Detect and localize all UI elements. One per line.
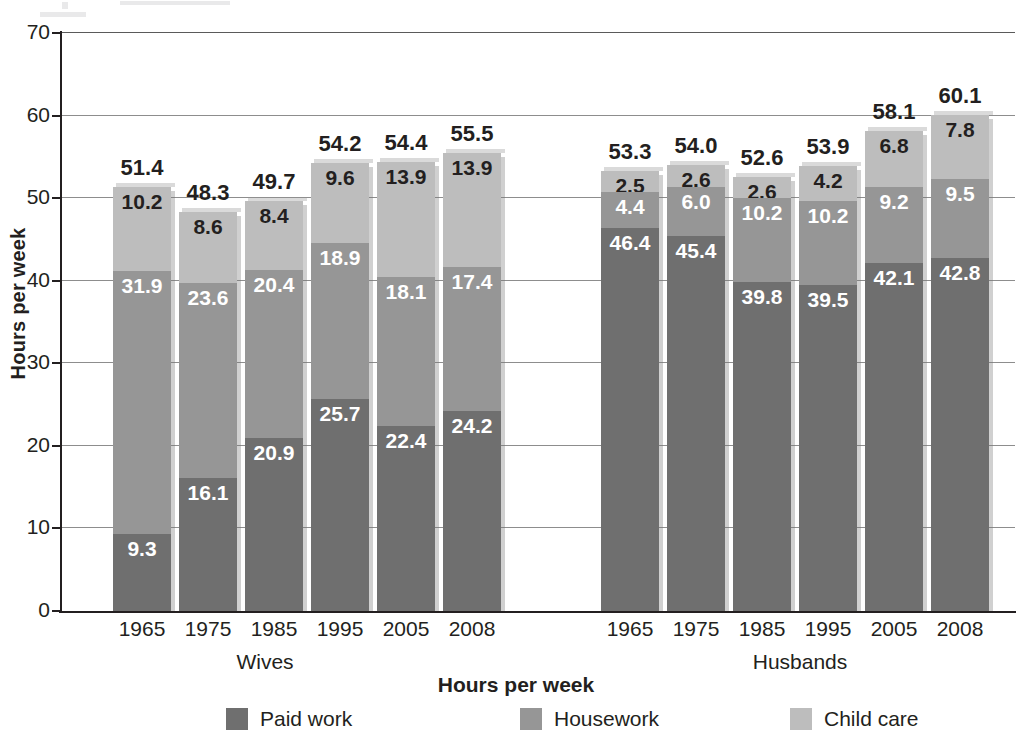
- legend-label-child-care: Child care: [824, 707, 919, 731]
- housework-swatch: [520, 708, 542, 730]
- y-axis-line: [60, 31, 62, 613]
- segment-child-care-wives-2008[interactable]: 13.9: [443, 153, 501, 268]
- bar-total-label-wives-2008: 55.5: [429, 121, 515, 147]
- segment-value-label: 6.0: [681, 187, 710, 212]
- segment-child-care-husbands-2005[interactable]: 6.8: [865, 131, 923, 187]
- bar-husbands-2008[interactable]: 7.89.542.8: [931, 115, 989, 611]
- segment-housework-wives-2005[interactable]: 18.1: [377, 277, 435, 426]
- bar-husbands-1985[interactable]: 2.610.239.8: [733, 177, 791, 611]
- segment-housework-husbands-2005[interactable]: 9.2: [865, 187, 923, 263]
- segment-paid-work-husbands-1965[interactable]: 46.4: [601, 228, 659, 611]
- segment-child-care-wives-1995[interactable]: 9.6: [311, 163, 369, 242]
- segment-value-label: 42.1: [874, 263, 915, 288]
- segment-value-label: 18.9: [320, 243, 361, 268]
- legend-item-paid-work[interactable]: Paid work: [226, 707, 352, 731]
- y-tick-label-10: 10: [4, 515, 50, 539]
- segment-value-label: 9.5: [945, 179, 974, 204]
- gridline-70: [60, 32, 1015, 33]
- segment-value-label: 9.3: [127, 534, 156, 559]
- segment-value-label: 39.8: [742, 282, 783, 307]
- stacked-bar-chart: Hours per week 706050403020100 51.410.23…: [0, 0, 1032, 746]
- bar-wives-2005[interactable]: 13.918.122.4: [377, 162, 435, 611]
- bar-wives-1985[interactable]: 8.420.420.9: [245, 201, 303, 611]
- bar-total-label-wives-1965: 51.4: [99, 155, 185, 181]
- bar-husbands-1965[interactable]: 2.54.446.4: [601, 171, 659, 611]
- bar-husbands-2005[interactable]: 6.89.242.1: [865, 131, 923, 611]
- bar-total-label-wives-1985: 49.7: [231, 169, 317, 195]
- group-label-wives: Wives: [100, 650, 430, 674]
- segment-paid-work-wives-2008[interactable]: 24.2: [443, 411, 501, 611]
- segment-housework-wives-1995[interactable]: 18.9: [311, 243, 369, 399]
- segment-value-label: 9.2: [879, 187, 908, 212]
- segment-value-label: 16.1: [188, 478, 229, 503]
- segment-paid-work-wives-1985[interactable]: 20.9: [245, 438, 303, 611]
- segment-child-care-wives-1985[interactable]: 8.4: [245, 201, 303, 270]
- legend-label-paid-work: Paid work: [260, 707, 352, 731]
- segment-value-label: 20.9: [254, 438, 295, 463]
- group-label-husbands: Husbands: [600, 650, 1000, 674]
- segment-value-label: 25.7: [320, 399, 361, 424]
- segment-value-label: 46.4: [610, 228, 651, 253]
- segment-value-label: 18.1: [386, 277, 427, 302]
- segment-value-label: 39.5: [808, 285, 849, 310]
- legend-item-child-care[interactable]: Child care: [790, 707, 919, 731]
- segment-housework-wives-1965[interactable]: 31.9: [113, 271, 171, 534]
- x-axis-line: [59, 611, 1016, 613]
- legend: Paid work Housework Child care: [0, 707, 1032, 739]
- bar-wives-1995[interactable]: 9.618.925.7: [311, 163, 369, 611]
- segment-housework-husbands-2008[interactable]: 9.5: [931, 179, 989, 257]
- segment-housework-husbands-1985[interactable]: 10.2: [733, 198, 791, 282]
- segment-paid-work-husbands-2005[interactable]: 42.1: [865, 263, 923, 611]
- segment-value-label: 20.4: [254, 270, 295, 295]
- y-tick-label-70: 70: [4, 20, 50, 44]
- segment-paid-work-wives-2005[interactable]: 22.4: [377, 426, 435, 611]
- segment-child-care-husbands-1965[interactable]: 2.5: [601, 171, 659, 192]
- segment-child-care-wives-2005[interactable]: 13.9: [377, 162, 435, 277]
- segment-child-care-wives-1975[interactable]: 8.6: [179, 212, 237, 283]
- segment-value-label: 13.9: [386, 162, 427, 187]
- segment-value-label: 4.4: [615, 192, 644, 217]
- paid-work-swatch: [226, 708, 248, 730]
- legend-title: Hours per week: [0, 673, 1032, 697]
- segment-housework-wives-2008[interactable]: 17.4: [443, 267, 501, 411]
- bar-total-label-husbands-2008: 60.1: [917, 83, 1003, 109]
- segment-child-care-husbands-2008[interactable]: 7.8: [931, 115, 989, 179]
- scan-artifact: [40, 12, 86, 17]
- x-tick-wives-2008: 2008: [429, 617, 515, 641]
- segment-value-label: 17.4: [452, 267, 493, 292]
- y-tick-label-0: 0: [4, 598, 50, 622]
- segment-housework-husbands-1965[interactable]: 4.4: [601, 192, 659, 228]
- segment-child-care-husbands-1975[interactable]: 2.6: [667, 165, 725, 186]
- y-tick-label-60: 60: [4, 103, 50, 127]
- segment-paid-work-wives-1975[interactable]: 16.1: [179, 478, 237, 611]
- segment-paid-work-wives-1965[interactable]: 9.3: [113, 534, 171, 611]
- y-tick-label-40: 40: [4, 268, 50, 292]
- child-care-swatch: [790, 708, 812, 730]
- segment-housework-husbands-1995[interactable]: 10.2: [799, 201, 857, 285]
- segment-housework-wives-1985[interactable]: 20.4: [245, 270, 303, 438]
- y-tick-label-30: 30: [4, 350, 50, 374]
- segment-value-label: 42.8: [940, 258, 981, 283]
- segment-paid-work-husbands-1985[interactable]: 39.8: [733, 282, 791, 611]
- segment-value-label: 8.4: [259, 201, 288, 226]
- scan-artifact: [120, 1, 230, 5]
- segment-value-label: 10.2: [742, 198, 783, 223]
- bar-husbands-1975[interactable]: 2.66.045.4: [667, 165, 725, 611]
- segment-value-label: 6.8: [879, 131, 908, 156]
- segment-child-care-husbands-1985[interactable]: 2.6: [733, 177, 791, 198]
- segment-housework-wives-1975[interactable]: 23.6: [179, 283, 237, 478]
- segment-paid-work-husbands-1995[interactable]: 39.5: [799, 285, 857, 611]
- segment-value-label: 10.2: [808, 201, 849, 226]
- segment-value-label: 31.9: [122, 271, 163, 296]
- legend-item-housework[interactable]: Housework: [520, 707, 659, 731]
- bar-wives-1975[interactable]: 8.623.616.1: [179, 212, 237, 611]
- segment-child-care-husbands-1995[interactable]: 4.2: [799, 166, 857, 201]
- bar-husbands-1995[interactable]: 4.210.239.5: [799, 166, 857, 611]
- segment-child-care-wives-1965[interactable]: 10.2: [113, 187, 171, 271]
- bar-wives-2008[interactable]: 13.917.424.2: [443, 153, 501, 611]
- segment-housework-husbands-1975[interactable]: 6.0: [667, 187, 725, 237]
- segment-paid-work-husbands-2008[interactable]: 42.8: [931, 258, 989, 611]
- bar-wives-1965[interactable]: 10.231.99.3: [113, 187, 171, 611]
- segment-paid-work-husbands-1975[interactable]: 45.4: [667, 236, 725, 611]
- segment-paid-work-wives-1995[interactable]: 25.7: [311, 399, 369, 611]
